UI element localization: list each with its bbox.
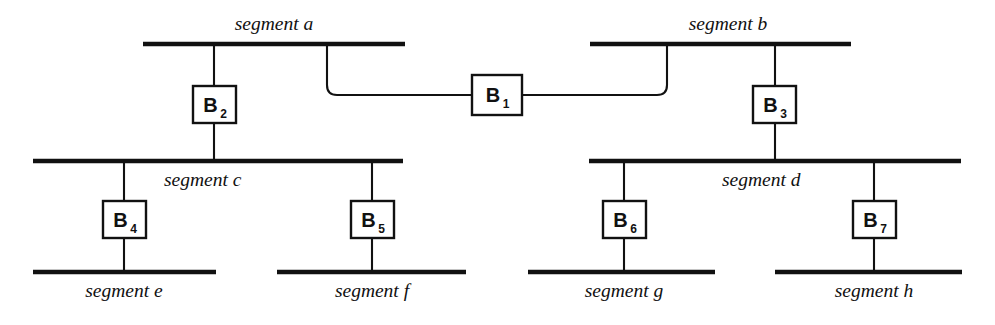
segment-label-e: segment e [85, 280, 163, 301]
segment-label-f: segment f [335, 280, 412, 301]
bridge-node-layer: B1B2B3B4B5B6B7 [103, 75, 896, 238]
bridge-node-b4[interactable]: B4 [103, 201, 146, 238]
network-diagram: segment asegment bsegment csegment dsegm… [0, 0, 995, 325]
bridge-node-b7[interactable]: B7 [853, 201, 896, 238]
bridge-letter-b2: B [203, 94, 217, 116]
bridge-letter-b3: B [763, 94, 777, 116]
bridge-node-b2[interactable]: B2 [193, 86, 236, 123]
bridge-node-b5[interactable]: B5 [351, 201, 394, 238]
bridge-subscript-b4: 4 [130, 222, 137, 236]
B1-to-segment-b [522, 44, 667, 95]
bridge-subscript-b2: 2 [220, 107, 227, 121]
bridge-subscript-b5: 5 [378, 222, 385, 236]
bridge-subscript-b7: 7 [880, 222, 887, 236]
bridge-letter-b5: B [361, 209, 375, 231]
bridge-node-b6[interactable]: B6 [603, 201, 646, 238]
bridge-subscript-b6: 6 [630, 222, 637, 236]
bridge-node-b3[interactable]: B3 [753, 86, 796, 123]
network-topology-canvas: segment asegment bsegment csegment dsegm… [0, 0, 995, 325]
bridge-letter-b1: B [486, 84, 500, 106]
segment-label-g: segment g [585, 280, 664, 301]
bridge-letter-b7: B [863, 209, 877, 231]
segment-label-d: segment d [722, 169, 801, 190]
segment-label-h: segment h [835, 280, 914, 301]
bridge-letter-b4: B [113, 209, 127, 231]
bridge-subscript-b3: 3 [780, 107, 787, 121]
segment-label-layer: segment asegment bsegment csegment dsegm… [85, 13, 913, 301]
segment-a-to-B1 [327, 44, 472, 95]
segment-label-b: segment b [689, 13, 768, 34]
bridge-node-b1[interactable]: B1 [472, 75, 522, 115]
segment-label-a: segment a [235, 13, 314, 34]
bridge-letter-b6: B [613, 209, 627, 231]
bridge-subscript-b1: 1 [503, 97, 510, 111]
segment-label-c: segment c [164, 169, 242, 190]
